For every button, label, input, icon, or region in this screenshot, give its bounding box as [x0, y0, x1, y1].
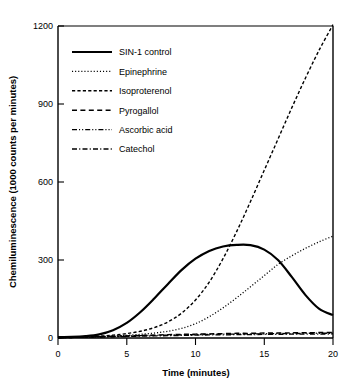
series-line-epinephrine — [58, 236, 333, 338]
legend-label: Ascorbic acid — [119, 125, 173, 135]
x-axis-tick-labels: 0 5 10 15 20 — [55, 349, 338, 359]
y-axis-title: Chemiluminescence (1000 counts per minut… — [7, 76, 18, 288]
plot-frame — [58, 26, 333, 338]
y-tick-label: 1200 — [33, 21, 53, 31]
y-tick-label: 0 — [48, 333, 53, 343]
x-tick-label: 10 — [190, 349, 200, 359]
legend-label: Isoproterenol — [119, 86, 172, 96]
legend-item: Catechol — [72, 144, 155, 154]
chart-legend: SIN-1 controlEpinephrineIsoproterenolPyr… — [72, 47, 173, 154]
x-tick-label: 15 — [259, 349, 269, 359]
legend-item: Pyrogallol — [72, 106, 159, 116]
chart-figure: 1200 900 600 300 0 0 5 10 15 20 Time (mi… — [0, 0, 354, 389]
x-tick-label: 20 — [328, 349, 338, 359]
x-axis-ticks — [58, 338, 333, 345]
legend-item: SIN-1 control — [72, 47, 172, 57]
x-axis-title: Time (minutes) — [162, 367, 229, 378]
y-tick-label: 900 — [38, 99, 53, 109]
data-series-layer — [58, 25, 333, 338]
y-axis-ticks — [58, 26, 64, 338]
y-tick-label: 600 — [38, 177, 53, 187]
x-tick-label: 5 — [124, 349, 129, 359]
legend-label: Catechol — [119, 144, 155, 154]
series-line-sin-1-control — [58, 245, 333, 338]
legend-label: SIN-1 control — [119, 47, 172, 57]
legend-item: Isoproterenol — [72, 86, 172, 96]
y-tick-label: 300 — [38, 255, 53, 265]
x-tick-label: 0 — [55, 349, 60, 359]
series-line-isoproterenol — [58, 25, 333, 338]
legend-item: Epinephrine — [72, 67, 167, 77]
legend-label: Pyrogallol — [119, 106, 159, 116]
legend-item: Ascorbic acid — [72, 125, 173, 135]
legend-label: Epinephrine — [119, 67, 167, 77]
y-axis-tick-labels: 1200 900 600 300 0 — [33, 21, 53, 343]
chart-canvas: 1200 900 600 300 0 0 5 10 15 20 Time (mi… — [0, 0, 354, 389]
